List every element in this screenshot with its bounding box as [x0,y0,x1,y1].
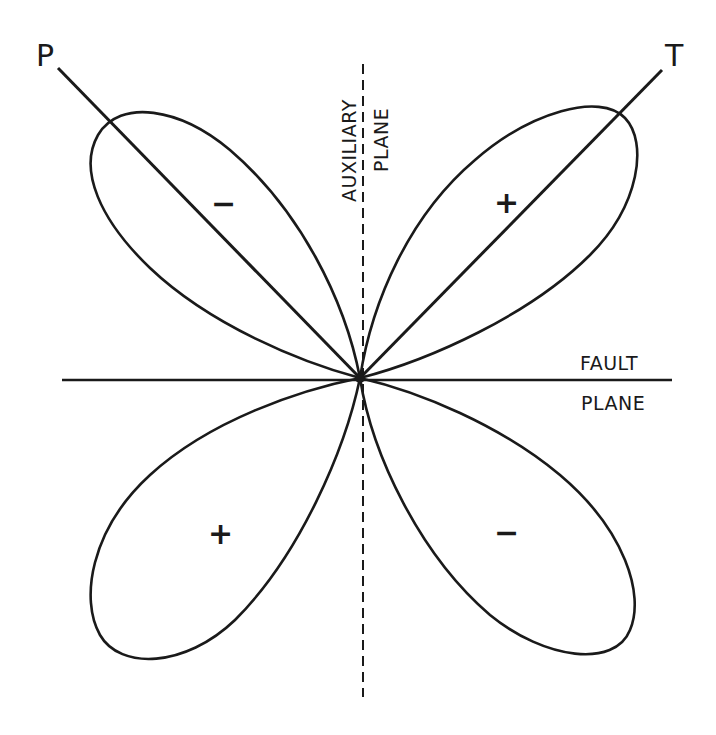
p-axis-label: P [36,38,54,73]
sign-lower-left: + [208,516,233,551]
auxiliary-plane-label-line2: PLANE [370,108,392,172]
radiation-pattern-diagram: P T AUXILIARY PLANE FAULT PLANE − + + − [0,0,716,735]
p-axis-line [58,68,360,378]
sign-upper-left: − [211,186,236,221]
origin-point [355,373,365,383]
auxiliary-plane-label-line1: AUXILIARY [338,99,360,202]
sign-lower-right: − [494,515,519,550]
t-axis-label: T [664,38,684,73]
fault-plane-label-line1: FAULT [580,352,638,374]
sign-upper-right: + [494,185,519,220]
fault-plane-label-line2: PLANE [581,392,645,414]
